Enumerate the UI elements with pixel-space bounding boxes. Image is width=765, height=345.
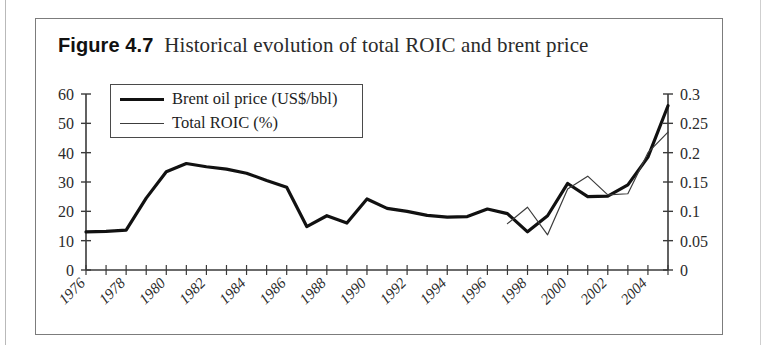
chart-plot-area: 0102030405060 00.050.10.150.20.250.3 197…: [0, 0, 765, 345]
legend-label-roic: Total ROIC (%): [172, 113, 278, 133]
x-axis-tick-label: 1982: [176, 274, 209, 307]
x-axis-tick-label: 1998: [497, 274, 530, 307]
y-axis-left: 0102030405060: [58, 86, 91, 279]
x-axis-tick-label: 1976: [56, 274, 89, 307]
x-axis-tick-labels: 1976197819801982198419861988199019921994…: [56, 274, 651, 307]
y-right-tick-label: 0.05: [680, 233, 708, 250]
x-axis-tick-label: 1978: [96, 274, 129, 307]
chart-legend: Brent oil price (US$/bbl) Total ROIC (%): [110, 84, 363, 138]
x-axis-tick-label: 1986: [256, 274, 289, 307]
x-axis-tick-label: 2004: [618, 274, 651, 307]
y-left-tick-label: 10: [58, 233, 74, 250]
x-axis-tick-label: 1992: [377, 274, 410, 307]
line-chart: 0102030405060 00.050.10.150.20.250.3 197…: [0, 0, 765, 345]
x-axis-tick-label: 2000: [537, 274, 570, 307]
y-right-tick-label: 0: [680, 262, 688, 279]
y-right-tick-label: 0.15: [680, 174, 708, 191]
legend-item-roic: Total ROIC (%): [120, 112, 278, 134]
series-line-roic: [507, 132, 668, 235]
y-right-tick-label: 0.1: [680, 203, 700, 220]
legend-line-swatch-brent: [120, 98, 164, 101]
y-right-tick-label: 0.2: [680, 145, 700, 162]
y-left-tick-label: 40: [58, 145, 74, 162]
y-left-tick-label: 30: [58, 174, 74, 191]
x-axis: [86, 265, 668, 275]
y-left-tick-label: 60: [58, 86, 74, 103]
y-left-tick-label: 50: [58, 115, 74, 132]
x-axis-tick-label: 1984: [216, 274, 249, 307]
x-axis-tick-label: 1980: [136, 274, 169, 307]
y-left-tick-label: 20: [58, 203, 74, 220]
y-left-tick-label: 0: [66, 262, 74, 279]
x-axis-tick-label: 2002: [577, 274, 610, 307]
x-axis-tick-label: 1990: [337, 274, 370, 307]
x-axis-tick-label: 1996: [457, 274, 490, 307]
legend-item-brent: Brent oil price (US$/bbl): [120, 88, 337, 110]
x-axis-tick-label: 1994: [417, 274, 450, 307]
legend-line-swatch-roic: [120, 123, 164, 124]
legend-label-brent: Brent oil price (US$/bbl): [172, 89, 337, 109]
y-right-tick-label: 0.3: [680, 86, 700, 103]
x-axis-tick-label: 1988: [296, 274, 329, 307]
y-right-tick-label: 0.25: [680, 115, 708, 132]
y-axis-right: 00.050.10.150.20.250.3: [663, 86, 708, 279]
